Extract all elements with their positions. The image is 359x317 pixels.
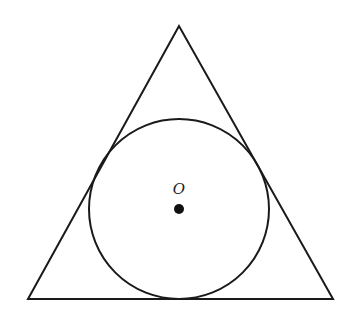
incircle-diagram: O xyxy=(0,0,359,317)
center-label: O xyxy=(173,180,185,198)
triangle xyxy=(28,26,333,299)
center-point-o xyxy=(174,204,184,214)
